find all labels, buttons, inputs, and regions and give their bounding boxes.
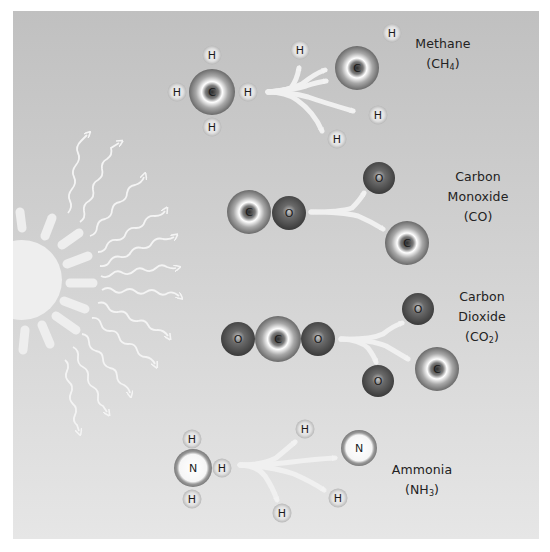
svg-text:H: H (296, 44, 304, 57)
svg-text:C: C (274, 333, 282, 346)
carbon-atom: C (189, 69, 235, 115)
svg-text:H: H (278, 507, 286, 520)
svg-text:C: C (245, 206, 253, 219)
hydrogen-atom: H (239, 83, 258, 102)
nitrogen-atom: N (174, 449, 212, 487)
svg-text:O: O (234, 333, 243, 346)
svg-text:H: H (388, 27, 396, 40)
svg-text:H: H (374, 109, 382, 122)
hydrogen-atom: H (183, 490, 202, 509)
svg-text:N: N (189, 462, 197, 475)
carbon-monoxide-label: Carbon Monoxide (CO) (438, 167, 518, 227)
co2-intact: O O C (221, 316, 335, 362)
molecule-name-line2: Monoxide (438, 187, 518, 207)
carbon-atom: C (385, 221, 429, 265)
svg-text:H: H (244, 86, 252, 99)
svg-text:H: H (301, 423, 309, 436)
molecule-name: Methane (403, 34, 483, 54)
hydrogen-atom: H (328, 130, 347, 149)
oxygen-atom: O (362, 365, 394, 397)
hydrogen-atom: H (203, 118, 222, 137)
svg-text:H: H (218, 462, 226, 475)
oxygen-atom: O (221, 322, 255, 356)
svg-text:H: H (333, 133, 341, 146)
molecule-dissociation-diagram: H H H H C H H C H H C O (0, 0, 550, 552)
svg-text:O: O (314, 333, 323, 346)
svg-text:C: C (403, 237, 411, 250)
hydrogen-atom: H (329, 489, 348, 508)
svg-text:H: H (188, 433, 196, 446)
svg-text:O: O (375, 172, 384, 185)
svg-text:H: H (188, 493, 196, 506)
molecule-formula: (NH3) (382, 480, 462, 504)
svg-text:O: O (414, 303, 423, 316)
svg-text:H: H (173, 86, 181, 99)
svg-text:H: H (208, 49, 216, 62)
svg-text:H: H (334, 492, 342, 505)
hydrogen-atom: H (296, 420, 315, 439)
svg-text:O: O (374, 375, 383, 388)
molecule-formula: (CH4) (403, 54, 483, 78)
nitrogen-atom: N (341, 430, 377, 466)
hydrogen-atom: H (291, 41, 310, 60)
oxygen-atom: O (301, 322, 335, 356)
hydrogen-atom: H (168, 83, 187, 102)
methane-label: Methane (CH4) (403, 34, 483, 78)
hydrogen-atom: H (183, 430, 202, 449)
carbon-dioxide-label: Carbon Dioxide (CO2) (442, 287, 522, 351)
hydrogen-atom: H (383, 24, 402, 43)
molecule-name: Ammonia (382, 460, 462, 480)
hydrogen-atom: H (203, 46, 222, 65)
svg-text:N: N (355, 442, 363, 455)
hydrogen-atom: H (213, 459, 232, 478)
molecule-name-line1: Carbon (438, 167, 518, 187)
molecule-name-line1: Carbon (442, 287, 522, 307)
svg-text:C: C (433, 363, 441, 376)
hydrogen-atom: H (273, 504, 292, 523)
molecule-name-line2: Dioxide (442, 307, 522, 327)
oxygen-atom: O (402, 293, 434, 325)
svg-text:C: C (208, 86, 216, 99)
molecule-formula: (CO) (438, 207, 518, 227)
carbon-atom: C (335, 46, 379, 90)
svg-text:O: O (285, 207, 294, 220)
carbon-atom: C (415, 347, 459, 391)
carbon-atom: C (255, 316, 301, 362)
oxygen-atom: O (363, 162, 395, 194)
svg-text:H: H (208, 121, 216, 134)
svg-text:C: C (353, 62, 361, 75)
molecule-formula: (CO2) (442, 327, 522, 351)
hydrogen-atom: H (369, 106, 388, 125)
oxygen-atom: O (272, 196, 306, 230)
carbon-atom: C (227, 190, 271, 234)
ammonia-label: Ammonia (NH3) (382, 460, 462, 504)
